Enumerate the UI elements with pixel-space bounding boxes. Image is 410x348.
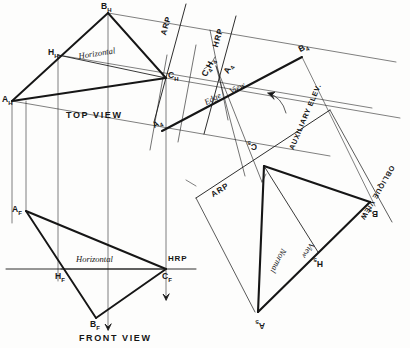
oblique-fold-left <box>196 198 255 312</box>
projectors-auxiliary-to-oblique <box>186 57 375 206</box>
vertex-label-h-f: HF <box>55 272 65 283</box>
front-view-title: FRONT VIEW <box>79 334 152 343</box>
drawing-canvas <box>0 0 410 348</box>
vertex-label-h-5: H5 <box>313 257 323 268</box>
oblique-view-normal-line <box>264 166 318 252</box>
vertex-label-c-h: CH <box>168 71 179 82</box>
vertex-label-h-h: HH <box>48 48 59 59</box>
vertex-label-b-f: BF <box>90 320 100 331</box>
drawing-sheet: AH BH CH HH Horizontal TOP VIEW AF BF CF… <box>0 0 410 348</box>
vertex-label-a-h: AH <box>2 95 13 106</box>
front-view-horizontal-label: Horizontal <box>76 255 113 264</box>
projector-arrowheads <box>105 294 169 330</box>
vertex-label-b-h: BH <box>101 2 112 13</box>
top-view-title: TOP VIEW <box>66 111 122 120</box>
front-view-triangle <box>26 211 166 318</box>
vertex-label-c-f: CF <box>162 272 172 283</box>
vertex-label-a-f: AF <box>12 205 22 216</box>
projectors-top-to-auxiliary <box>12 13 400 156</box>
oblique-view-triangle <box>258 166 370 312</box>
hrp-label-front: HRP <box>168 255 187 263</box>
projectors-top-to-front <box>12 13 166 330</box>
vertex-label-c-5: C5 <box>247 140 257 151</box>
auxiliary-leader <box>268 92 286 113</box>
vertex-label-a-5: A5 <box>255 319 265 330</box>
oblique-fold-right <box>330 110 392 222</box>
